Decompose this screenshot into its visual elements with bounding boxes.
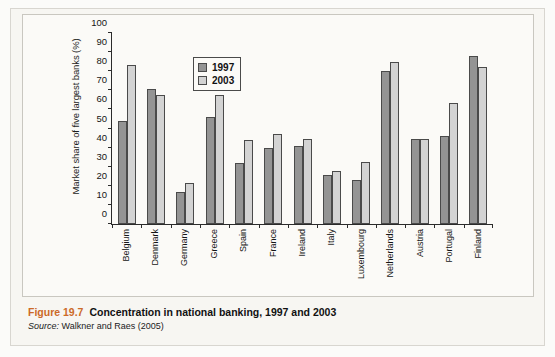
- y-axis-tick-label: 0: [102, 208, 112, 219]
- bar-1997: [411, 139, 420, 224]
- x-axis-label-germany: Germany: [179, 229, 189, 266]
- bar-1997: [469, 56, 478, 224]
- bar-group: [141, 33, 170, 224]
- x-axis-label-ireland: Ireland: [297, 229, 307, 257]
- bar-group: [259, 33, 288, 224]
- y-axis-tick-label: 40: [96, 131, 112, 142]
- bar-2003: [478, 67, 487, 224]
- bar-2003: [332, 171, 341, 224]
- x-axis-label-cell: France: [258, 227, 287, 291]
- plot-area: 0102030405060708090100: [111, 33, 493, 225]
- bar-group: [317, 33, 346, 224]
- x-axis-label-cell: Portugal: [434, 227, 463, 291]
- bar-groups: [112, 33, 493, 224]
- bar-group: [405, 33, 434, 224]
- x-axis-label-cell: Belgium: [111, 227, 140, 291]
- figure-page: Market share of five largest banks (%) 0…: [0, 0, 555, 357]
- y-axis-tick-label: 70: [96, 74, 112, 85]
- y-axis-tick-label: 100: [91, 17, 112, 28]
- y-axis-title: Market share of five largest banks (%): [70, 22, 81, 212]
- legend-swatch-1997-icon: [198, 63, 207, 72]
- y-axis-tick-label: 30: [96, 150, 112, 161]
- bar-1997: [176, 192, 185, 224]
- x-axis-label-cell: Germany: [170, 227, 199, 291]
- bar-1997: [264, 148, 273, 224]
- bar-1997: [147, 89, 156, 224]
- x-axis-label-portugal: Portugal: [444, 229, 454, 263]
- bar-group: [376, 33, 405, 224]
- x-axis-label-france: France: [268, 229, 278, 257]
- y-axis-tick-label: 60: [96, 93, 112, 104]
- bar-group: [112, 33, 141, 224]
- x-axis-label-netherlands: Netherlands: [385, 229, 395, 278]
- y-axis-tick-label: 20: [96, 169, 112, 180]
- x-axis-label-cell: Italy: [317, 227, 346, 291]
- bar-2003: [156, 95, 165, 224]
- x-axis-label-denmark: Denmark: [150, 229, 160, 266]
- legend-item-1997: 1997: [198, 61, 234, 74]
- chart-legend: 1997 2003: [193, 57, 241, 91]
- x-axis-label-cell: Finland: [464, 227, 493, 291]
- bar-2003: [449, 103, 458, 224]
- figure-caption: Figure 19.7Concentration in national ban…: [28, 305, 528, 333]
- bar-1997: [118, 121, 127, 224]
- x-axis-label-belgium: Belgium: [121, 229, 131, 262]
- x-axis-label-cell: Greece: [199, 227, 228, 291]
- bar-group: [288, 33, 317, 224]
- x-axis-label-italy: Italy: [326, 229, 336, 246]
- x-axis-label-austria: Austria: [415, 229, 425, 257]
- source-word: Source:: [28, 321, 59, 331]
- figure-source-line: Source: Walkner and Raes (2005): [28, 320, 528, 333]
- x-axis-label-greece: Greece: [209, 229, 219, 259]
- x-axis-label-spain: Spain: [238, 229, 248, 252]
- source-text: Walkner and Raes (2005): [62, 321, 164, 331]
- x-axis-label-cell: Netherlands: [376, 227, 405, 291]
- bar-2003: [420, 139, 429, 224]
- bar-2003: [215, 95, 224, 224]
- bar-2003: [244, 140, 253, 224]
- bar-2003: [273, 134, 282, 224]
- bar-1997: [206, 117, 215, 224]
- y-axis-tick-label: 80: [96, 55, 112, 66]
- bar-2003: [185, 183, 194, 224]
- bar-group: [464, 33, 493, 224]
- legend-label-1997: 1997: [212, 62, 234, 73]
- bar-group: [434, 33, 463, 224]
- figure-number: Figure 19.7: [28, 306, 83, 318]
- x-axis-label-cell: Luxembourg: [346, 227, 375, 291]
- y-axis-tick-label: 50: [96, 112, 112, 123]
- bar-2003: [303, 139, 312, 224]
- bar-1997: [381, 71, 390, 224]
- chart-figure-box: Market share of five largest banks (%) 0…: [22, 14, 534, 297]
- x-axis-label-cell: Spain: [229, 227, 258, 291]
- bar-2003: [361, 162, 370, 224]
- legend-item-2003: 2003: [198, 74, 234, 87]
- x-axis-labels: BelgiumDenmarkGermanyGreeceSpainFranceIr…: [111, 227, 493, 291]
- x-axis-label-cell: Austria: [405, 227, 434, 291]
- bar-1997: [352, 180, 361, 224]
- legend-swatch-2003-icon: [198, 76, 207, 85]
- bar-1997: [294, 146, 303, 224]
- y-axis-tick-label: 90: [96, 36, 112, 47]
- bar-2003: [390, 62, 399, 224]
- bar-1997: [440, 136, 449, 224]
- x-axis-label-cell: Denmark: [140, 227, 169, 291]
- x-axis-label-finland: Finland: [473, 229, 483, 259]
- x-axis-label-luxembourg: Luxembourg: [356, 229, 366, 279]
- bar-2003: [127, 65, 136, 224]
- legend-label-2003: 2003: [212, 75, 234, 86]
- caption-title-line: Figure 19.7Concentration in national ban…: [28, 305, 528, 319]
- bar-1997: [323, 175, 332, 224]
- bar-1997: [235, 163, 244, 224]
- y-axis-tick-label: 10: [96, 188, 112, 199]
- figure-title: Concentration in national banking, 1997 …: [89, 306, 336, 318]
- x-axis-label-cell: Ireland: [287, 227, 316, 291]
- bar-group: [347, 33, 376, 224]
